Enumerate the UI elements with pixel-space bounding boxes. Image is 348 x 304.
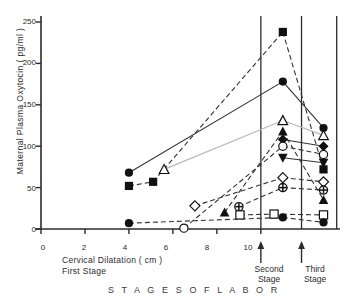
data-point-s10-p1 [279,213,287,221]
data-point-s0-p1 [149,178,157,186]
series-line-10 [129,217,283,223]
data-point-s7-p0 [190,201,200,211]
series-line-10 [283,217,324,222]
chart-footer-label: S T A G E S O F L A B O R [108,285,280,295]
first-stage-label: First Stage [62,266,106,276]
y-tick-label-200: 200 [8,58,36,67]
data-point-s10-p2 [319,218,327,226]
series-line-4 [283,140,324,147]
data-point-s9-p2 [319,211,327,219]
data-point-s2-p0 [159,164,169,173]
y-tick-label-50: 50 [8,184,36,193]
series-line-6 [283,158,324,163]
stage-arrow-head [298,241,305,249]
y-tick-label-100: 100 [8,142,36,151]
x-tick-label-0: 0 [33,243,53,252]
data-point-s3-p2 [319,195,329,204]
series-line-5 [184,146,283,228]
x-axis-title: Cervical Dilatation ( cm ) [62,255,162,265]
data-point-s10-p0 [125,219,133,227]
x-tick-label-6: 6 [156,243,176,252]
y-tick-label-250: 250 [8,17,36,26]
x-tick-label-4: 4 [115,243,135,252]
data-point-s2-p1 [278,116,288,125]
data-point-s5-p0 [180,224,188,232]
second-stage-label-line1: Second [249,264,289,274]
series-line-0 [283,32,324,169]
y-tick-label-150: 150 [8,100,36,109]
series-line-2 [283,121,324,136]
series-line-2 [164,121,283,170]
oxytocin-scatter-plot [0,0,348,304]
series-line-1 [283,82,324,128]
data-point-s5-p1 [279,142,287,150]
data-point-s9-p1 [270,210,278,218]
series-line-9 [240,214,274,215]
second-stage-label-line2: Stage [249,274,289,284]
y-tick-label-0: 0 [8,225,36,234]
data-point-s3-p1 [278,126,288,135]
data-point-s4-p1 [319,141,329,151]
chart-figure: Maternal Plasma Oxytocin ( pg/ml ) 250 2… [0,0,348,304]
third-stage-label-line2: Stage [295,274,335,284]
data-point-s1-p0 [125,169,133,177]
data-point-s2-p2 [319,131,329,140]
data-point-s5-p2 [319,150,327,158]
data-point-s3-p0 [220,208,230,217]
data-point-s0-p0 [125,182,133,190]
stage-arrow-head [257,241,264,249]
x-tick-label-2: 2 [74,243,94,252]
x-tick-label-8: 8 [197,243,217,252]
data-point-s0-p2 [279,28,287,36]
data-point-s7-p1 [278,173,288,183]
series-line-7 [283,178,324,182]
x-tick-label-10: 10 [238,243,258,252]
data-point-s7-p2 [319,177,329,187]
series-line-1 [129,82,283,173]
data-point-s1-p1 [279,78,287,86]
data-point-s9-p0 [236,211,244,219]
third-stage-label-line1: Third [295,264,335,274]
